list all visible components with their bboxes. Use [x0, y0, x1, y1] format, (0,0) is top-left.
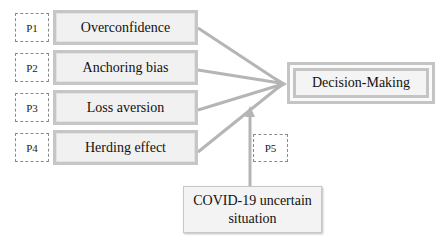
label-p3: P3	[15, 93, 49, 122]
label-p1: P1	[15, 13, 49, 42]
factor-herding-effect-text: Herding effect	[56, 133, 195, 162]
label-p5: P5	[253, 134, 288, 162]
factor-loss-aversion-text: Loss aversion	[56, 93, 195, 122]
moderator-covid-19: COVID-19 uncertain situation	[183, 186, 322, 233]
factor-anchoring-bias-text: Anchoring bias	[56, 53, 195, 82]
factor-loss-aversion: Loss aversion	[53, 90, 198, 125]
factor-herding-effect: Herding effect	[53, 130, 198, 165]
arrow-p2	[198, 70, 280, 83]
factor-anchoring-bias: Anchoring bias	[53, 50, 198, 85]
arrow-p1	[198, 28, 280, 82]
factor-overconfidence: Overconfidence	[53, 10, 198, 45]
outcome-decision-making: Decision-Making	[287, 62, 435, 104]
outcome-decision-making-text: Decision-Making	[293, 68, 429, 98]
factor-overconfidence-text: Overconfidence	[56, 13, 195, 42]
label-p4: P4	[15, 133, 49, 162]
label-p2: P2	[15, 53, 49, 82]
